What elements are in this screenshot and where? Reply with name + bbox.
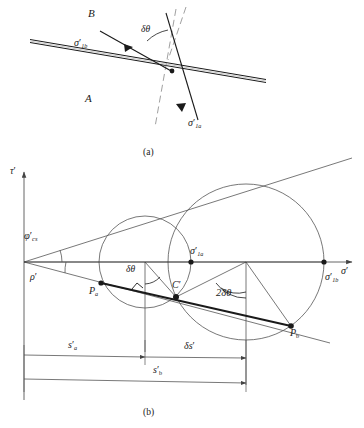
sigma-1a-sub-b: 1a (197, 250, 203, 257)
rho-arc (65, 262, 66, 273)
rho-line (24, 262, 330, 343)
chord-pa-pb (101, 283, 291, 326)
sigma-prime: ′ (346, 265, 348, 276)
c-prime-mark: ′ (179, 279, 181, 290)
figure-container: B A σ′1b σ′1a δθ (a) τ′ σ′ φ′cs ρ′ δθ 2δ… (0, 0, 364, 428)
point-c-prime (173, 294, 179, 300)
sigma-1a-label-b: σ′1a (190, 246, 203, 257)
figure-svg (0, 0, 364, 428)
sigma-axis-label: σ′ (341, 266, 348, 276)
c-prime-label: C′ (172, 280, 181, 290)
sigma-1b-sub-a: 1b (81, 42, 87, 49)
delta-theta-label-a: δθ (141, 25, 150, 35)
sigma-1b-arrowhead (124, 44, 133, 52)
sigma-1b-sub-b: 1b (332, 276, 338, 283)
radius-b-to-C (176, 262, 246, 297)
region-label-B: B (88, 8, 95, 19)
dimension-label-sb: s′b (153, 365, 162, 376)
shear-band (30, 40, 266, 83)
point-sigma-1b (321, 259, 326, 264)
dimension-label-ds: δs′ (184, 341, 195, 351)
dashed-normal-right (168, 7, 186, 60)
delta-theta-label-b: δθ (126, 265, 135, 275)
sigma-1a-label-a: σ′1a (188, 118, 201, 129)
point-pb-label: Pb (290, 328, 299, 339)
phi-sub-cs: cs (32, 235, 37, 242)
delta-theta-arc-a (147, 30, 168, 41)
sigma-1b-arrow (100, 31, 173, 72)
tau-axis-label: τ′ (10, 166, 16, 176)
ds-symbol: δs (184, 340, 193, 351)
two-delta-theta-label: 2δθ (216, 288, 231, 299)
caption-a: (a) (143, 148, 154, 158)
dimension-delta-s (145, 357, 246, 358)
sa-sub: a (74, 344, 77, 351)
c-symbol: C (172, 279, 179, 290)
right-angle-marker (132, 283, 143, 289)
ds-prime: ′ (193, 340, 195, 351)
phi-cs-arc (60, 250, 62, 262)
phi-cs-label: φ′cs (24, 231, 38, 242)
panel-b-graphics (24, 158, 352, 400)
tau-prime: ′ (14, 165, 16, 176)
sb-sub: b (159, 369, 162, 376)
pa-sub: a (95, 290, 98, 297)
rho-prime: ′ (35, 271, 37, 282)
point-pa-label: Pa (89, 286, 98, 297)
radius-b-to-Pb (246, 262, 291, 326)
rho-label: ρ′ (30, 272, 37, 282)
point-sigma-1a (188, 259, 193, 264)
region-label-A: A (85, 93, 92, 104)
intersection-point (170, 69, 175, 74)
dimension-s-a (24, 355, 145, 357)
dimension-s-b (24, 379, 246, 383)
sigma-1a-arrowhead (176, 103, 186, 112)
caption-b: (b) (143, 408, 154, 418)
dimension-label-sa: s′a (68, 340, 77, 351)
sigma-1b-label-b: σ′1b (325, 272, 338, 283)
sigma-1a-sub-a: 1a (195, 122, 201, 129)
pb-sub: b (296, 332, 299, 339)
delta-theta-arc-b (145, 277, 160, 284)
point-pa (98, 280, 103, 285)
sigma-1b-label-a: σ′1b (74, 38, 87, 49)
